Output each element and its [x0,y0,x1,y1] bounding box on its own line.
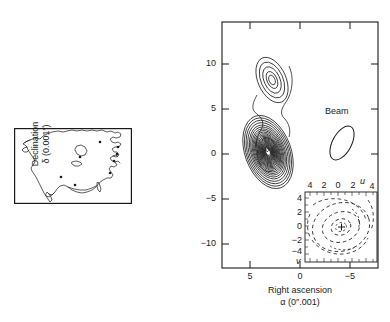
x-axis-title-line1: Right ascension [240,285,360,295]
y-tick-label: 0 [198,148,216,158]
uv-u-axis-label: u [360,176,365,186]
uv-u-tick-label: 0 [332,180,344,190]
uv-v-axis-label: v [296,256,301,266]
x-tick-label: −5 [341,271,359,281]
uv-v-tick-label: 4 [290,193,302,203]
contour-map-svg [0,0,390,322]
y-tick-label: 5 [198,103,216,113]
uv-u-tick-label: 4 [366,181,378,191]
uv-v-tick-label: 0 [290,221,302,231]
y-tick-label: 10 [198,58,216,68]
contour-map-panel: 5 0 −5 10 5 0 −5 −10 Declination δ (0.00… [0,0,390,322]
uv-v-tick-label: −2 [288,235,302,245]
y-axis-title-sub: δ (0.001″) [35,89,53,199]
y-tick-label: −5 [196,193,216,203]
beam-annotation-label: Beam [325,106,349,116]
y-tick-label: −10 [193,238,216,248]
uv-inset [305,192,377,262]
x-tick-label: 5 [242,271,258,281]
uv-u-tick-label: 2 [318,180,330,190]
x-tick-label: 0 [292,271,308,281]
figure-root: 5 0 −5 10 5 0 −5 −10 Declination δ (0.00… [0,0,390,322]
x-axis-title-line2: α (0″.001) [240,297,360,307]
uv-u-tick-label: 2 [347,180,359,190]
uv-v-tick-label: −4 [288,246,302,256]
uv-u-tick-label: 4 [304,180,316,190]
uv-v-tick-label: 2 [290,207,302,217]
y-axis-title-line2: δ (0.001″) [41,124,51,163]
